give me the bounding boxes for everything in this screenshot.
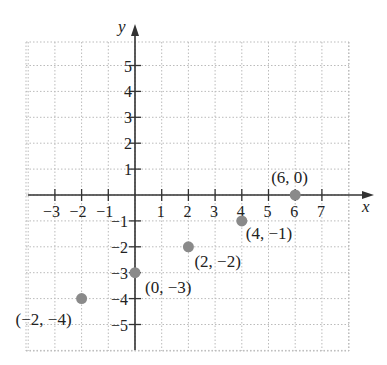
data-point <box>130 267 141 278</box>
y-axis-label: y <box>116 17 126 36</box>
x-tick-label: 3 <box>210 203 218 220</box>
x-tick-label: 2 <box>183 203 191 220</box>
y-tick-label: 2 <box>124 135 132 152</box>
point-label: (0, −3) <box>145 278 191 297</box>
point-label: (−2, −4) <box>16 310 72 329</box>
x-tick-label: −2 <box>70 203 87 220</box>
data-point <box>76 293 87 304</box>
x-tick-label: 5 <box>264 203 272 220</box>
x-tick-label: 7 <box>317 203 325 220</box>
y-tick-label: −1 <box>111 213 128 230</box>
y-tick-label: 4 <box>124 83 132 100</box>
x-tick-label: 6 <box>290 203 298 220</box>
y-tick-label: 1 <box>124 161 132 178</box>
point-label: (6, 0) <box>271 168 308 187</box>
data-point <box>183 241 194 252</box>
data-point <box>290 190 301 201</box>
y-tick-label: −4 <box>111 291 128 308</box>
grid <box>26 42 349 351</box>
y-tick-label: −3 <box>111 265 128 282</box>
y-tick-label: 5 <box>124 58 132 75</box>
x-tick-label: −3 <box>43 203 60 220</box>
point-label: (2, −2) <box>194 252 240 271</box>
y-tick-label: 3 <box>124 109 132 126</box>
y-axis-arrow-icon <box>131 24 139 36</box>
point-label: (4, −1) <box>246 224 292 243</box>
x-tick-label: 1 <box>157 203 165 220</box>
coordinate-plane: xy−3−2−11234567−5−4−3−2−112345(−2, −4)(0… <box>0 0 387 365</box>
y-tick-label: −2 <box>111 239 128 256</box>
x-axis-label: x <box>361 197 370 216</box>
y-tick-label: −5 <box>111 317 128 334</box>
